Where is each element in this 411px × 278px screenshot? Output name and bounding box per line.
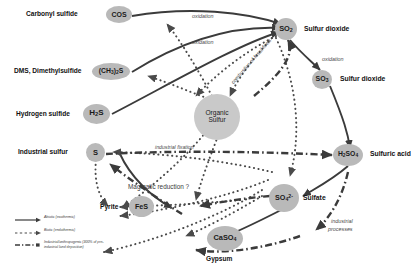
node-h2s[interactable]: H2S [83,104,110,124]
legend-label-abiotic: Abiotic (exothermic) [44,215,75,220]
node-h2so4[interactable]: H2SO4 [333,144,363,166]
edge-label-industrial-processes-line2: processes [328,226,353,232]
node-caso4-label: Gypsum [206,255,232,262]
node-cos-label: Carbonyl sulfide [26,10,78,17]
edge-label-industrial-fixation: industrial fixation [155,144,194,150]
edge-label-oxidation-2: oxidation [192,39,214,45]
edge-label-oxidation-1: oxidation [192,13,214,19]
legend-key-dash-dot-arrow [14,241,44,249]
node-h2s-formula: H2S [89,109,103,118]
legend-item-biotic: Biotic (endothermic) [14,228,108,237]
node-s[interactable]: S [86,143,105,162]
node-so3-formula: SO3 [316,75,329,83]
legend-item-abiotic: Abiotic (exothermic) [14,215,108,224]
node-cos-formula: COS [111,11,126,18]
node-dms-label: DMS, Dimethylsulfide [14,67,81,74]
legend-key-solid-arrow [14,216,44,224]
edge-label-magmatic-reduction: Magmatic reduction ? [128,183,189,191]
legend-label-industrial: Industrial/anthropogenic (300% of pre-in… [44,240,108,249]
node-s-formula: S [93,149,98,157]
node-so3-label: Sulfur dioxide [340,75,385,82]
node-so3[interactable]: SO3 [312,70,332,89]
legend-label-biotic: Biotic (endothermic) [44,228,75,233]
node-dms[interactable]: (CH3)2S [92,63,130,80]
legend-item-industrial: Industrial/anthropogenic (300% of pre-in… [14,240,108,249]
node-organic-sulfur-line2: Sulfur [208,117,225,124]
industrial-edges [106,40,348,251]
node-so4-label: Sulfate [303,194,326,201]
node-so2-formula: SO2 [279,25,293,34]
edge-label-oxidation-3: oxidation [322,56,344,62]
node-h2so4-label: Sulfuric acid [370,150,411,157]
node-fes-label: Pyrite [100,203,118,210]
node-organic-sulfur[interactable]: Organic Sulfur [194,94,240,140]
node-so4[interactable]: SO42- [269,184,299,212]
node-h2s-label: Hydrogen sulfide [16,110,70,117]
node-dms-formula: (CH3)2S [99,68,123,75]
node-caso4[interactable]: CaSO4 [207,226,243,251]
node-so2-label: Sulfur dioxide [304,25,349,32]
node-caso4-formula: CaSO4 [213,234,236,243]
node-h2so4-formula: H2SO4 [338,151,358,158]
node-so4-formula: SO42- [275,194,293,202]
node-so2[interactable]: SO2 [275,18,297,40]
edge-label-industrial-processes-line1: industrial [331,218,353,224]
node-fes-formula: FeS [135,203,148,210]
node-cos[interactable]: COS [106,6,132,23]
legend-key-dotted-arrow [14,229,44,237]
node-s-label: Industrial sulfur [18,148,68,155]
node-fes[interactable]: FeS [129,196,154,217]
legend: Abiotic (exothermic) Biotic (endothermic… [14,215,108,253]
